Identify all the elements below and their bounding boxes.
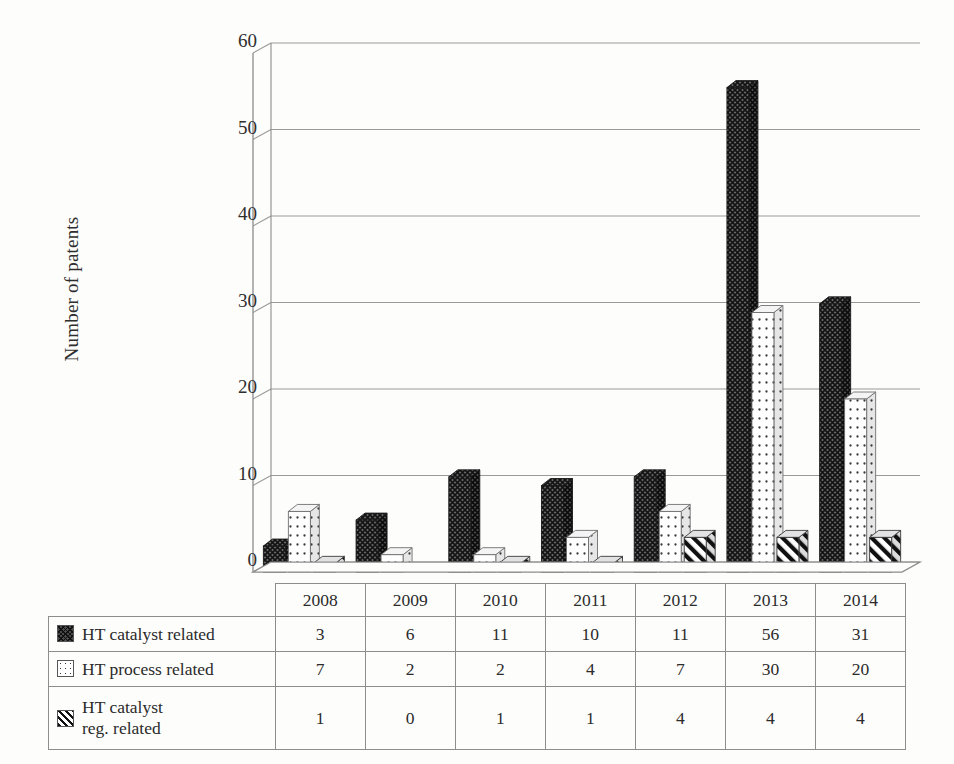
table-year-header: 2010 [455, 584, 545, 617]
legend-cell: HT catalyst related [49, 617, 276, 652]
legend-label: HT process related [82, 659, 214, 680]
table-value-cell: 4 [725, 687, 815, 750]
table-value-cell: 6 [365, 617, 455, 652]
table-value-cell: 30 [725, 652, 815, 687]
legend-label-line2: reg. related [82, 718, 163, 739]
legend-swatch-dotted-icon [57, 660, 74, 677]
table-value-cell: 56 [725, 617, 815, 652]
table-header-row: 2008200920102011201220132014 [49, 584, 906, 617]
y-axis-tick-label: 60 [213, 30, 257, 52]
table-row: HT process related722473020 [49, 652, 906, 687]
table-year-header: 2009 [365, 584, 455, 617]
chart-canvas [0, 0, 954, 600]
legend-swatch-diagonal-icon [57, 710, 74, 727]
table-corner-cell [49, 584, 276, 617]
table-value-cell: 3 [275, 617, 365, 652]
y-axis-tick-label: 30 [213, 290, 257, 312]
y-axis-tick-label: 0 [213, 549, 257, 571]
table-value-cell: 4 [815, 687, 905, 750]
y-axis-tick-label: 40 [213, 203, 257, 225]
data-table: 2008200920102011201220132014HT catalyst … [48, 583, 906, 750]
table-year-header: 2012 [635, 584, 725, 617]
table-year-header: 2011 [545, 584, 635, 617]
legend-cell: HT catalystreg. related [49, 687, 276, 750]
legend-cell: HT process related [49, 652, 276, 687]
patents-bar-chart-figure: Number of patents 0102030405060 20082009… [0, 0, 954, 764]
table-value-cell: 2 [365, 652, 455, 687]
legend-label: HT catalystreg. related [82, 697, 163, 738]
table-year-header: 2013 [725, 584, 815, 617]
table-value-cell: 4 [635, 687, 725, 750]
bars [263, 81, 900, 572]
table-value-cell: 2 [455, 652, 545, 687]
table-value-cell: 1 [545, 687, 635, 750]
table-row: HT catalystreg. related1011444 [49, 687, 906, 750]
table-value-cell: 7 [275, 652, 365, 687]
table-value-cell: 20 [815, 652, 905, 687]
table-value-cell: 10 [545, 617, 635, 652]
table-value-cell: 4 [545, 652, 635, 687]
table-year-header: 2014 [815, 584, 905, 617]
table-year-header: 2008 [275, 584, 365, 617]
table-value-cell: 1 [275, 687, 365, 750]
y-axis-tick-label: 10 [213, 463, 257, 485]
table-value-cell: 7 [635, 652, 725, 687]
table-value-cell: 11 [635, 617, 725, 652]
table-value-cell: 31 [815, 617, 905, 652]
y-axis-tick-label: 50 [213, 117, 257, 139]
table-row: HT catalyst related361110115631 [49, 617, 906, 652]
y-axis-tick-label: 20 [213, 376, 257, 398]
floor [253, 562, 920, 572]
table-value-cell: 1 [455, 687, 545, 750]
table-value-cell: 11 [455, 617, 545, 652]
plot-area: 0102030405060 [0, 0, 954, 600]
legend-label: HT catalyst related [82, 624, 215, 645]
bar-2013-s2 [752, 306, 783, 573]
legend-swatch-crosshatch-icon [57, 625, 74, 642]
table-value-cell: 0 [365, 687, 455, 750]
